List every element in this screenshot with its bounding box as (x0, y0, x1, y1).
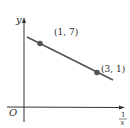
x-axis-arrow-icon (119, 106, 125, 110)
x-axis-label-denominator: x (121, 119, 125, 127)
origin-label: O (9, 107, 17, 118)
y-axis-label: y (15, 14, 22, 25)
data-point-1 (37, 41, 43, 47)
point-1-label: (1, 7) (54, 27, 78, 37)
graph: y O (1, 7) (3, 1) 1 x (0, 0, 130, 128)
data-point-2 (94, 70, 100, 76)
y-axis-arrow-icon (22, 17, 26, 23)
point-2-label: (3, 1) (101, 64, 125, 74)
x-axis-label-numerator: 1 (121, 111, 125, 119)
x-axis (7, 107, 121, 108)
